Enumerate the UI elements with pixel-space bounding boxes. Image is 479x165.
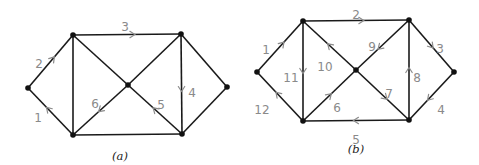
vertex-L	[254, 69, 260, 75]
edge-TR-C	[356, 20, 409, 70]
vertex-BL	[70, 132, 76, 138]
edge-BR-C	[128, 85, 182, 134]
edge-label: 5	[157, 98, 165, 112]
edge-label: 8	[413, 71, 421, 85]
figure-a: 213456(a)	[25, 20, 230, 164]
vertex-C	[353, 67, 359, 73]
vertex-TL	[300, 18, 306, 24]
vertex-R	[224, 84, 230, 90]
edge-label: 6	[91, 97, 99, 111]
edge-label: 4	[437, 103, 445, 117]
edge-TL-C	[73, 35, 128, 85]
edge-C-BL	[73, 85, 128, 135]
vertex-BL	[300, 118, 306, 124]
edge-label: 2	[35, 57, 43, 71]
edge-BR-BL	[303, 120, 409, 121]
figure-b: 123456789101112(b)	[254, 8, 457, 157]
edge-TR-R	[181, 34, 227, 87]
vertex-L	[25, 85, 31, 91]
edge-label: 4	[188, 86, 196, 100]
edge-C-TR	[128, 34, 181, 85]
edge-label: 10	[317, 60, 332, 74]
edge-TR-R	[409, 20, 454, 72]
edge-label: 7	[385, 87, 393, 101]
edge-BL-BR	[73, 134, 182, 135]
figure-caption: (a)	[112, 149, 128, 163]
edge-label: 1	[262, 43, 270, 57]
edge-label: 3	[121, 20, 129, 34]
edge-label: 12	[254, 103, 269, 117]
edge-label: 11	[283, 71, 298, 85]
vertex-BR	[179, 131, 185, 137]
vertex-BR	[406, 117, 412, 123]
vertex-TR	[178, 31, 184, 37]
edge-label: 1	[34, 111, 42, 125]
edge-label: 6	[333, 101, 341, 115]
graph-figures: 213456(a) 123456789101112(b)	[0, 0, 479, 165]
edge-TR-BR	[181, 34, 182, 134]
vertex-TR	[406, 17, 412, 23]
edge-C-BR	[356, 70, 409, 120]
vertex-C	[125, 82, 131, 88]
edge-BL-C	[303, 70, 356, 121]
edge-label: 2	[352, 8, 360, 22]
edge-label: 3	[436, 42, 444, 56]
edge-TL-TR	[73, 34, 181, 35]
vertex-TL	[70, 32, 76, 38]
figure-caption: (b)	[348, 142, 364, 156]
edge-label: 9	[368, 40, 376, 54]
vertex-R	[451, 69, 457, 75]
